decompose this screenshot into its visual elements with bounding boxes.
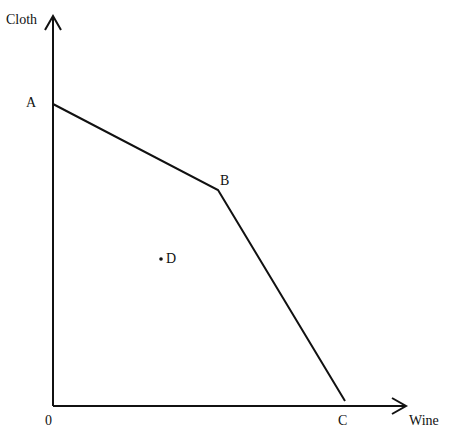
point-d-marker	[159, 257, 163, 261]
point-d-label: D	[166, 252, 176, 266]
ppf-curve	[53, 104, 345, 401]
origin-label: 0	[45, 414, 52, 428]
point-a-label: A	[26, 96, 36, 110]
ppf-diagram	[0, 0, 459, 441]
x-axis-label: Wine	[409, 414, 439, 428]
point-b-label: B	[220, 174, 229, 188]
point-c-label: C	[338, 414, 347, 428]
y-axis-label: Cloth	[6, 13, 37, 27]
